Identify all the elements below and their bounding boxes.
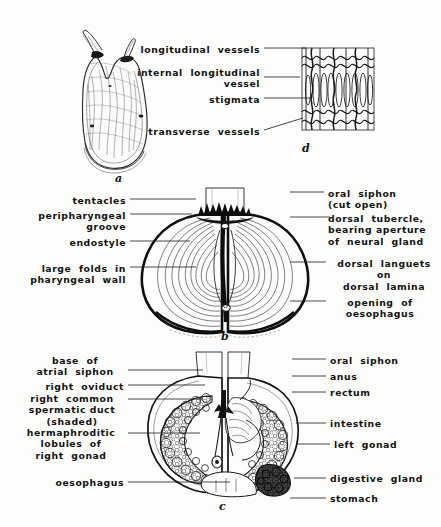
label-internal-longitudinal-vessel: internal longitudinal vessel [110, 67, 260, 90]
label-endostyle: endostyle [36, 237, 126, 248]
label-stigmata: stigmata [150, 94, 260, 105]
label-peripharyngeal-groove: peripharyngeal groove [16, 210, 126, 233]
label-longitudinal-vessels: longitudinal vessels [120, 44, 260, 55]
label-stomach: stomach [330, 493, 440, 504]
label-dorsal-languets: dorsal languets on dorsal lamina [328, 258, 440, 292]
panel-c-artwork [148, 352, 298, 497]
label-opening-of-oesophagus: opening of oesophagus [328, 297, 432, 320]
label-right-common-spermatic-duct: right common spermatic duct (shaded) [20, 393, 124, 427]
label-tentacles: tentacles [36, 195, 126, 206]
label-right-oviduct: right oviduct [26, 381, 124, 392]
label-digestive-gland: digestive gland [330, 473, 441, 484]
label-intestine: intestine [330, 418, 440, 429]
label-oral-siphon-cut-open: oral siphon (cut open) [328, 188, 440, 211]
figure-letter-d: d [302, 142, 310, 155]
label-hermaphroditic-lobules-of-right-gonad: hermaphroditic lobules of right gonad [18, 427, 124, 461]
label-dorsal-tubercle: dorsal tubercle, bearing aperture of neu… [328, 213, 441, 247]
panel-b-artwork [142, 188, 308, 337]
label-oesophagus: oesophagus [26, 477, 124, 488]
figure-page: longitudinal vessels internal longitudin… [0, 0, 441, 527]
figure-letter-a: a [115, 172, 122, 185]
label-left-gonad: left gonad [334, 439, 440, 450]
label-anus: anus [330, 371, 440, 382]
label-rectum: rectum [330, 387, 440, 398]
figure-letter-c: c [219, 500, 226, 513]
label-base-of-atrial-siphon: base of atrial siphon [26, 355, 124, 378]
label-oral-siphon: oral siphon [330, 355, 440, 366]
label-transverse-vessels: transverse vessels [120, 126, 260, 137]
panel-d-artwork [302, 48, 374, 130]
label-large-folds-in-pharyngeal-wall: large folds in pharyngeal wall [10, 263, 126, 286]
leader-lines [128, 48, 330, 498]
figure-letter-b: b [221, 330, 229, 343]
leader-line-transverse-vessels [264, 118, 303, 130]
